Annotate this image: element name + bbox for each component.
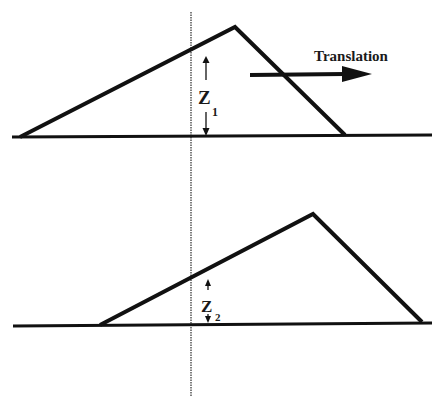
z1-subscript: 1 xyxy=(212,105,218,119)
translation-label: Translation xyxy=(314,48,389,64)
z2-up-arrowhead-icon xyxy=(205,279,211,286)
z1-up-arrowhead-icon xyxy=(203,56,210,63)
z2-label: Z xyxy=(201,297,212,316)
translation-arrow-shaft xyxy=(250,74,345,75)
translation-arrowhead-icon xyxy=(342,66,372,82)
z1-label: Z xyxy=(198,87,211,108)
z2-down-arrowhead-icon xyxy=(205,316,211,323)
z2-subscript: 2 xyxy=(215,311,221,323)
top-baseline xyxy=(12,135,432,137)
bottom-triangle xyxy=(100,214,422,325)
diagram-canvas: Z 1 Translation Z 2 xyxy=(0,0,445,406)
bottom-baseline xyxy=(13,323,432,326)
top-triangle xyxy=(20,27,345,137)
bottom-panel: Z 2 xyxy=(13,214,432,326)
top-panel: Z 1 Translation xyxy=(12,27,432,137)
